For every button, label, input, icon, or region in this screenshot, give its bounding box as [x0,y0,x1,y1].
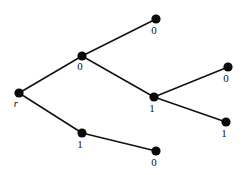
tree-node-label-n011: 1 [221,127,227,139]
tree-node-label-root: r [14,97,19,109]
tree-diagram-canvas: r0010110 [0,0,246,175]
tree-edge-n0-n00 [82,19,156,56]
tree-edge-root-n0 [19,56,82,93]
tree-node-label-n1: 1 [77,138,83,150]
tree-node-n011 [221,117,230,126]
tree-node-label-n01: 1 [149,102,155,114]
tree-node-label-n00: 0 [151,24,157,36]
tree-edge-root-n1 [19,93,82,133]
tree-node-n00 [151,14,160,23]
tree-labels-group: r0010110 [14,24,229,168]
tree-edges-group [19,19,228,151]
tree-node-n10 [151,146,160,155]
tree-diagram-figure: r0010110 [0,0,246,175]
tree-node-n01 [149,92,158,101]
tree-edge-n1-n10 [82,133,156,151]
tree-node-label-n0: 0 [77,60,83,72]
tree-edge-n01-n011 [154,97,226,122]
tree-node-label-n010: 0 [223,72,229,84]
tree-node-n1 [77,128,86,137]
tree-edge-n0-n01 [82,56,154,97]
tree-node-label-n10: 0 [151,156,157,168]
tree-node-n010 [223,62,232,71]
tree-edge-n01-n010 [154,67,228,97]
